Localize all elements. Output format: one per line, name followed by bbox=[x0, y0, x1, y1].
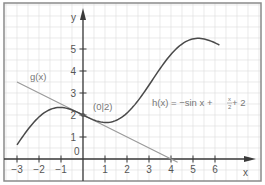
y-tick-label: 3 bbox=[70, 88, 76, 99]
origin-label: 0 bbox=[74, 146, 80, 157]
x-tick-label: −1 bbox=[55, 164, 67, 175]
h-function-label: h(x) = −sin x + x 2 + 2 bbox=[152, 96, 245, 110]
h-label-prefix: h(x) = −sin x + bbox=[152, 97, 213, 108]
point-label: (0|2) bbox=[93, 101, 112, 112]
x-tick-label: 6 bbox=[212, 164, 218, 175]
x-tick-label: 3 bbox=[146, 164, 152, 175]
tangent-point bbox=[81, 113, 85, 117]
x-tick-label: 1 bbox=[102, 164, 108, 175]
x-tick-label: −3 bbox=[11, 164, 23, 175]
y-tick-label: 5 bbox=[70, 44, 76, 55]
x-tick-label: 5 bbox=[190, 164, 196, 175]
h-label-frac-num: x bbox=[228, 96, 231, 102]
h-label-suffix: + 2 bbox=[232, 97, 245, 108]
y-tick-label: 1 bbox=[70, 132, 76, 143]
x-tick-label: −2 bbox=[33, 164, 45, 175]
y-tick-label: 4 bbox=[70, 66, 76, 77]
y-axis-label: y bbox=[71, 12, 76, 23]
g-function-label: g(x) bbox=[30, 71, 46, 82]
plot-background bbox=[0, 0, 265, 185]
x-axis-label: x bbox=[243, 167, 248, 178]
function-plot: −3−2−112345612345 y x 0 g(x) (0|2) h(x) … bbox=[0, 0, 265, 185]
x-tick-label: 2 bbox=[124, 164, 130, 175]
x-tick-label: 4 bbox=[168, 164, 174, 175]
